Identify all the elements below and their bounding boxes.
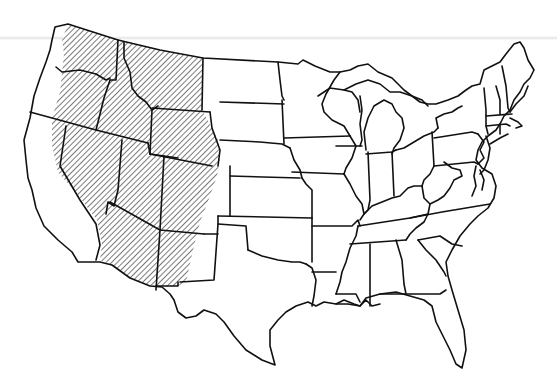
border-in-oh xyxy=(392,152,394,196)
michigan-upper-peninsula xyxy=(344,80,428,106)
border-oh-pa xyxy=(432,132,434,166)
border-sd-ne xyxy=(220,140,290,148)
border-ne-ks xyxy=(230,176,300,178)
border-mo-ar xyxy=(312,220,360,226)
hatched-western-region xyxy=(52,24,220,287)
gulf-coast-detail xyxy=(336,300,380,306)
border-ny-pa xyxy=(434,132,478,138)
border-ks-mo xyxy=(302,178,312,218)
chesapeake-bay xyxy=(472,166,476,196)
long-island xyxy=(490,134,508,144)
border-sc-ga xyxy=(418,240,446,276)
border-mo-il xyxy=(344,174,364,220)
border-ia-il xyxy=(344,136,356,174)
maine-coast xyxy=(510,86,528,112)
border-nd-mn xyxy=(278,62,284,100)
border-nd-sd xyxy=(220,102,284,104)
border-ia-mo xyxy=(292,172,344,174)
border-mt-nd xyxy=(202,58,203,110)
great-lakes-borders xyxy=(318,80,462,214)
cape-cod xyxy=(510,118,522,128)
border-vt-nh-ma xyxy=(486,114,512,116)
border-ne-ia-mo xyxy=(290,148,302,178)
border-pa-md xyxy=(434,162,478,166)
michigan-lower-peninsula xyxy=(364,100,404,154)
border-nc-sc xyxy=(418,236,462,246)
lake-michigan-west-shore xyxy=(360,96,362,146)
border-ar-ms xyxy=(336,226,358,294)
border-nh-me xyxy=(502,66,510,112)
border-mn-ia xyxy=(284,136,350,138)
lake-ontario-shore xyxy=(436,106,462,128)
border-ny-vt-ma-ct xyxy=(484,88,488,134)
border-ok-panhandle xyxy=(218,224,248,250)
delmarva xyxy=(480,170,484,190)
border-ga-al xyxy=(396,240,406,294)
border-oh-wv xyxy=(422,166,434,186)
border-ks-ok xyxy=(218,216,312,218)
border-wv-va xyxy=(422,162,462,204)
southern-state-borders xyxy=(336,162,490,306)
border-tx-la xyxy=(306,264,316,306)
border-vt-nh xyxy=(496,86,500,114)
border-mn-wi xyxy=(322,72,350,136)
us-map xyxy=(0,0,557,382)
border-ok-tx xyxy=(248,250,306,264)
border-il-in xyxy=(364,152,370,214)
